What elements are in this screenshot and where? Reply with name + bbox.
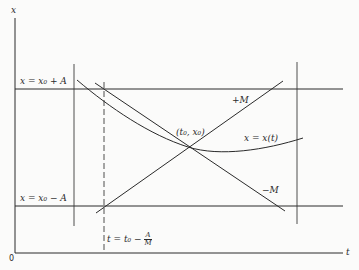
positive-slope-label: +M: [232, 96, 249, 105]
lower-bound-label: x = x₀ − A: [20, 194, 67, 203]
point-label: (t₀, x₀): [176, 128, 205, 137]
upper-bound-label: x = x₀ + A: [20, 77, 67, 86]
fraction-denominator: M: [144, 240, 151, 247]
diagram-canvas: x t 0 x = x₀ + A x = x₀ − A +M −M (t₀, x…: [0, 0, 359, 270]
dashed-line-label: t = t₀ − A M: [107, 232, 152, 247]
dashed-line-label-prefix: t = t₀ −: [107, 234, 142, 244]
negative-slope-label: −M: [262, 186, 279, 195]
origin-label: 0: [9, 255, 14, 263]
horizontal-axis-label: t: [346, 248, 350, 257]
negative-slope-line: [95, 83, 285, 211]
dashed-line-label-fraction: A M: [144, 232, 151, 247]
curve-label: x = x(t): [244, 134, 278, 143]
vertical-axis-label: x: [11, 6, 16, 15]
